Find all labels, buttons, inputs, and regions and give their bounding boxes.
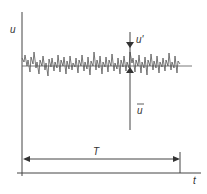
arrow-down-icon <box>126 42 134 48</box>
arrow-right-icon <box>173 156 180 162</box>
period-label: T <box>93 146 100 157</box>
mean-label: u <box>137 105 143 116</box>
fluctuating-signal <box>22 52 180 76</box>
turbulence-diagram: u u' u t T <box>0 0 207 194</box>
fluctuation-label: u' <box>136 34 145 45</box>
x-axis-label: t <box>193 175 197 186</box>
arrow-up-icon <box>126 67 134 73</box>
arrow-left-icon <box>23 156 30 162</box>
y-axis-label: u <box>10 24 16 35</box>
